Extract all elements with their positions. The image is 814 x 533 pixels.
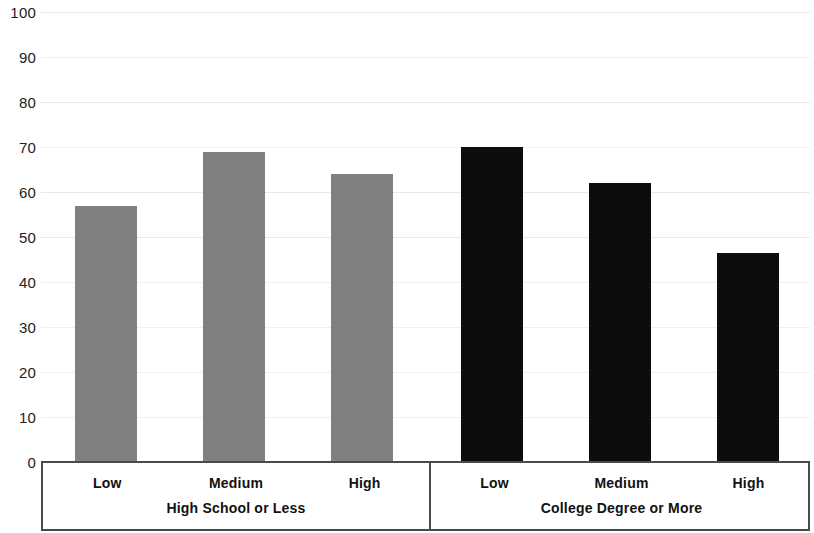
bar-college-low (461, 147, 523, 462)
bar-college-medium (589, 183, 651, 462)
y-tick-label: 80 (0, 94, 36, 111)
category-row: Low Medium High (431, 468, 812, 498)
category-label-table: Low Medium High High School or Less Low … (41, 462, 810, 531)
bars-layer (41, 12, 810, 462)
bar-high-school-low (75, 206, 137, 463)
category-label-medium: Medium (558, 468, 685, 498)
bar-chart: 100 90 80 70 60 50 40 30 20 10 0 (0, 0, 814, 533)
category-label-medium: Medium (172, 468, 301, 498)
y-tick-label: 100 (0, 4, 36, 21)
category-label-low: Low (43, 468, 172, 498)
y-tick-label: 70 (0, 139, 36, 156)
group-label-high-school-or-less: High School or Less (43, 500, 429, 516)
y-tick-label: 0 (0, 454, 36, 471)
plot-area (41, 12, 810, 462)
y-tick-label: 40 (0, 274, 36, 291)
y-tick-label: 90 (0, 49, 36, 66)
bar-high-school-medium (203, 152, 265, 463)
y-tick-label: 30 (0, 319, 36, 336)
group-college-degree-or-more: Low Medium High College Degree or More (431, 462, 812, 531)
y-tick-label: 50 (0, 229, 36, 246)
category-label-high: High (685, 468, 812, 498)
group-high-school-or-less: Low Medium High High School or Less (43, 462, 429, 531)
category-label-low: Low (431, 468, 558, 498)
bar-high-school-high (331, 174, 393, 462)
y-tick-label: 60 (0, 184, 36, 201)
y-tick-label: 10 (0, 409, 36, 426)
group-label-college-degree-or-more: College Degree or More (431, 500, 812, 516)
y-tick-label: 20 (0, 364, 36, 381)
category-row: Low Medium High (43, 468, 429, 498)
bar-college-high (717, 253, 779, 462)
y-axis: 100 90 80 70 60 50 40 30 20 10 0 (0, 0, 36, 533)
category-label-high: High (300, 468, 429, 498)
